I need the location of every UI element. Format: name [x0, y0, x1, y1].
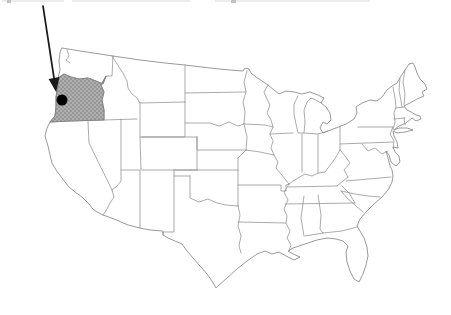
us-locator-map-figure — [0, 0, 451, 315]
us-map — [0, 0, 451, 315]
pointer-arrow-line — [43, 6, 54, 78]
location-marker-dot — [57, 95, 68, 106]
cropped-text-artifact — [2, 0, 370, 3]
